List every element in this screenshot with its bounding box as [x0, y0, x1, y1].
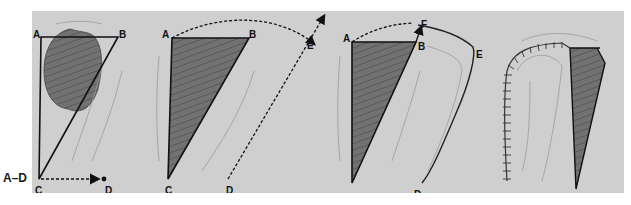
panel-d	[503, 34, 605, 190]
panel-b: A B C D E	[157, 16, 324, 193]
svg-text:A: A	[162, 29, 169, 40]
defect-triangle	[352, 42, 416, 183]
panel-c: A B F E D	[338, 19, 483, 193]
svg-text:C: C	[165, 185, 172, 193]
svg-text:B: B	[249, 29, 256, 40]
svg-text:E: E	[476, 49, 483, 60]
defect-triangle	[168, 38, 249, 179]
sutures	[503, 42, 562, 179]
svg-text:D: D	[105, 185, 112, 193]
arc-a-to-f	[352, 23, 413, 42]
svg-text:D: D	[226, 185, 233, 193]
svg-text:B: B	[418, 41, 425, 52]
svg-text:E: E	[307, 40, 314, 51]
illustration-panel: A B C D A B C D E A B	[32, 11, 624, 193]
svg-text:A: A	[343, 33, 350, 44]
svg-text:D: D	[414, 189, 421, 193]
svg-text:A: A	[33, 29, 40, 40]
panel-a: A B C D	[33, 21, 126, 193]
svg-text:B: B	[119, 29, 126, 40]
svg-text:C: C	[35, 185, 42, 193]
surgical-diagram: A B C D A B C D E A B	[32, 11, 624, 193]
flap-incision	[418, 25, 474, 183]
figure-label: A–D	[3, 171, 27, 185]
svg-text:F: F	[421, 19, 427, 30]
donor-triangle	[570, 48, 605, 189]
